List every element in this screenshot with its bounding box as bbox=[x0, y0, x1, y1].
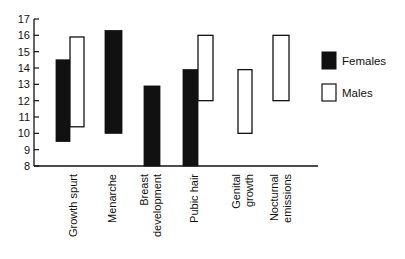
bar-males bbox=[273, 35, 289, 100]
legend-swatch-females bbox=[322, 52, 336, 69]
category-label: emissions bbox=[281, 174, 293, 223]
bar-males bbox=[70, 37, 84, 127]
bar-females bbox=[183, 70, 198, 166]
legend-label-females: Females bbox=[342, 55, 386, 67]
bar-males bbox=[238, 70, 252, 134]
y-tick-label: 12 bbox=[18, 95, 30, 107]
y-tick-label: 13 bbox=[18, 78, 30, 90]
bar-females bbox=[144, 86, 160, 166]
y-axis: 891011121314151617 bbox=[18, 13, 39, 172]
category-label: Pubic hair bbox=[188, 174, 200, 223]
bar-males bbox=[198, 35, 213, 100]
y-tick-label: 11 bbox=[19, 111, 30, 123]
legend-label-males: Males bbox=[342, 87, 373, 99]
category-label: Nocturnal bbox=[268, 174, 280, 221]
category-label: Menarche bbox=[106, 174, 118, 223]
y-tick-label: 17 bbox=[18, 13, 30, 25]
y-tick-label: 15 bbox=[18, 46, 30, 58]
category-label: Breast bbox=[138, 174, 150, 206]
x-axis: Growth spurtMenarcheBreastdevelopmentPub… bbox=[34, 166, 318, 237]
category-label: Genital bbox=[230, 174, 242, 209]
legend: Females Males bbox=[322, 52, 386, 101]
bars bbox=[56, 30, 289, 166]
y-tick-label: 10 bbox=[18, 127, 30, 139]
legend-swatch-males bbox=[322, 84, 336, 101]
y-tick-label: 16 bbox=[18, 29, 30, 41]
category-label: development bbox=[151, 174, 163, 237]
y-tick-label: 8 bbox=[24, 160, 30, 172]
y-tick-label: 9 bbox=[24, 144, 30, 156]
puberty-timing-chart: 891011121314151617 Growth spurtMenarcheB… bbox=[0, 0, 405, 259]
category-label: Growth spurt bbox=[67, 174, 79, 237]
y-tick-label: 14 bbox=[18, 62, 30, 74]
category-label: growth bbox=[243, 174, 255, 207]
bar-females bbox=[56, 60, 70, 142]
bar-females bbox=[105, 30, 122, 133]
